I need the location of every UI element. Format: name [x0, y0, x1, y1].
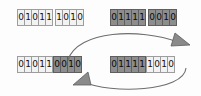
- bit-cell: 1: [45, 56, 53, 73]
- child-2-chromosome: 0 1 1 1 1 1 0 1 0: [110, 56, 175, 73]
- child-1-chromosome: 0 1 0 1 1 0 0 1 0: [17, 56, 82, 73]
- parent-1-tail-segment: 1 0 1 0: [55, 9, 84, 26]
- bit-cell: 1: [138, 9, 146, 26]
- child-2-head-segment: 0 1 1 1 1: [110, 56, 146, 73]
- child-2-tail-segment: 1 0 1 0: [146, 56, 175, 73]
- child-1-tail-segment: 0 0 1 0: [53, 56, 82, 73]
- bit-cell: 0: [169, 9, 177, 26]
- parent-2-tail-segment: 0 0 1 0: [148, 9, 177, 26]
- parent-2-chromosome: 0 1 1 1 1 0 0 1 0: [110, 9, 177, 26]
- bit-cell: 0: [74, 56, 82, 73]
- child-1-head-segment: 0 1 0 1 1: [17, 56, 53, 73]
- crossover-diagram: 0 1 0 1 1 1 0 1 0 0 1 1 1 1 0 0 1 0: [0, 0, 201, 96]
- bit-cell: 1: [45, 9, 53, 26]
- arrowhead-right: [171, 33, 190, 46]
- bit-cell: 0: [76, 9, 84, 26]
- bit-cell: 1: [138, 56, 146, 73]
- parent-2-head-segment: 0 1 1 1 1: [110, 9, 146, 26]
- parent-1-head-segment: 0 1 0 1 1: [17, 9, 53, 26]
- arrowhead-left: [73, 72, 91, 85]
- bit-cell: 0: [167, 56, 175, 73]
- parent-1-chromosome: 0 1 0 1 1 1 0 1 0: [17, 9, 84, 26]
